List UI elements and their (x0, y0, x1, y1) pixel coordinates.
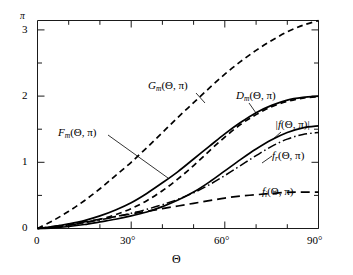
series-label-fm-args: (Θ, π) (70, 126, 96, 138)
y-minor-ticks (38, 63, 43, 195)
series-label-fr: fr(Θ, π) (272, 150, 304, 163)
y-tick-label-0: 0 (22, 222, 28, 233)
series-label-fabs: |f(Θ, π)| (275, 119, 310, 130)
curve-4 (38, 133, 319, 229)
chart-figure: π 3 2 1 0 0 30° 60° 90° Θ Gm(Θ, π) Dm(Θ,… (0, 0, 353, 275)
series-label-gm-args: (Θ, π) (161, 79, 187, 91)
series-label-fr-args: (Θ, π) (278, 149, 304, 161)
x-tick-label-60: 60° (214, 235, 229, 246)
y-tick-label-2: 2 (22, 90, 28, 101)
series-label-gm: Gm(Θ, π) (148, 80, 188, 93)
x-tick-label-30: 30° (120, 235, 135, 246)
y-tick-label-3: 3 (22, 24, 28, 35)
series-label-fi: fi(Θ, π) (262, 186, 293, 199)
series-label-dm: Dm(Θ, π) (236, 90, 276, 103)
series-label-fi-args: (Θ, π) (267, 185, 293, 197)
x-top-ticks (69, 21, 288, 28)
y-axis-pi-label: π (20, 12, 25, 22)
leader-gm (196, 93, 205, 103)
series-label-gm-main: G (148, 79, 156, 91)
leader-fr (262, 156, 272, 163)
series-label-fabs-args: (Θ, π)| (281, 118, 310, 130)
x-tick-label-90: 90° (307, 235, 322, 246)
series-label-fm-main: F (58, 126, 65, 138)
x-minor-ticks (69, 224, 288, 228)
x-axis-title: Θ (172, 252, 181, 267)
leader-dm (249, 103, 256, 113)
plot-canvas (0, 0, 353, 275)
series-label-dm-args: (Θ, π) (249, 89, 275, 101)
series-label-fm: Fm(Θ, π) (58, 127, 96, 140)
leader-fm (108, 135, 168, 178)
y-tick-label-1: 1 (22, 156, 28, 167)
curve-3 (38, 126, 319, 229)
y-right-ticks (312, 30, 319, 196)
series-label-dm-main: D (236, 89, 244, 101)
x-tick-label-0: 0 (34, 235, 40, 246)
